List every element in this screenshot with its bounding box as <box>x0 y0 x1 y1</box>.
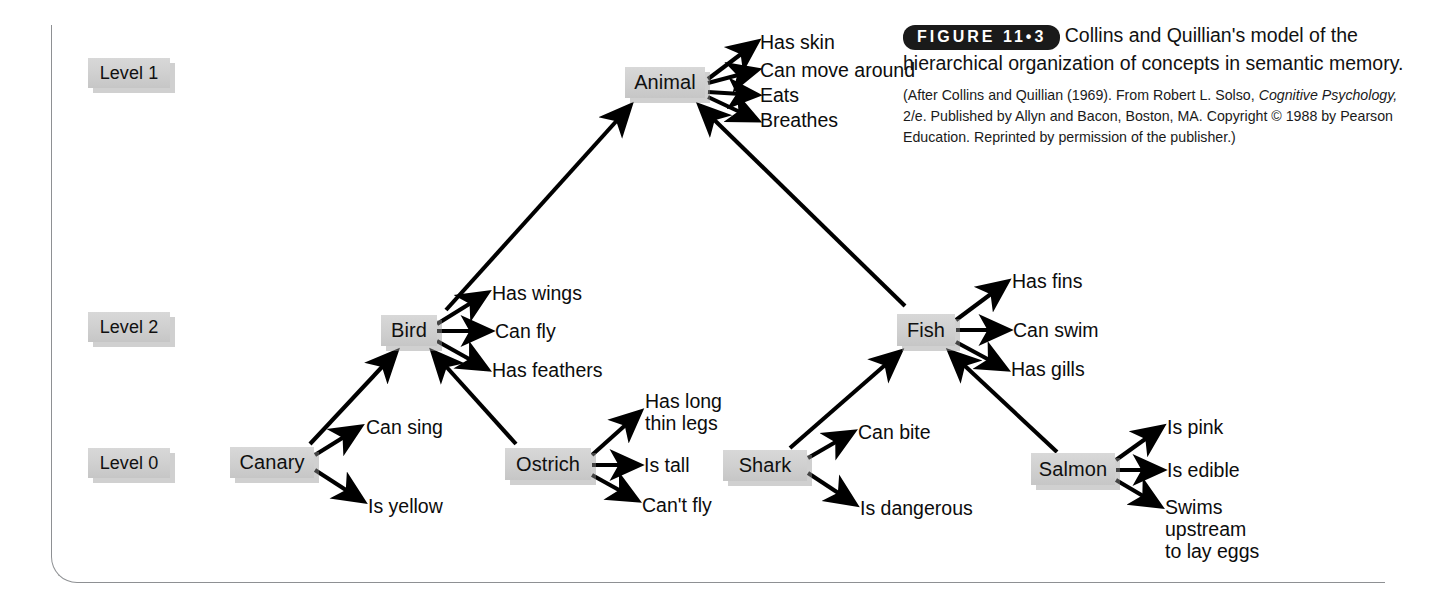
property-animal-can-move-around: Can move around <box>760 59 915 81</box>
node-ostrich-label: Ostrich <box>516 453 580 476</box>
node-shark-label: Shark <box>739 454 792 477</box>
property-canary-can-sing: Can sing <box>366 416 443 438</box>
credit-line-4: Reprinted by permission of the publisher… <box>974 129 1236 145</box>
property-bird-can-fly: Can fly <box>495 320 556 342</box>
node-salmon-label: Salmon <box>1039 458 1107 481</box>
property-fish-has-gills: Has gills <box>1011 358 1085 380</box>
node-ostrich[interactable]: Ostrich <box>505 448 591 480</box>
property-animal-breathes: Breathes <box>760 109 838 131</box>
property-bird-has-feathers: Has feathers <box>492 359 603 381</box>
edge-bird-to-animal <box>446 106 630 310</box>
property-animal-eats: Eats <box>760 84 799 106</box>
node-canary[interactable]: Canary <box>230 447 314 478</box>
property-ostrich-is-tall: Is tall <box>644 454 690 476</box>
level-label-0: Level 0 <box>88 448 170 478</box>
property-fish-can-swim: Can swim <box>1013 319 1099 341</box>
node-fish-label: Fish <box>907 319 945 342</box>
property-ostrich-has-long-thin-legs: Has long thin legs <box>645 390 722 434</box>
property-ostrich-cant-fly: Can't fly <box>642 494 712 516</box>
level-label-2-text: Level 2 <box>100 317 159 338</box>
property-salmon-is-edible: Is edible <box>1167 459 1240 481</box>
level-label-2: Level 2 <box>88 312 170 342</box>
edge-fish-has-gills <box>956 342 1006 369</box>
node-salmon[interactable]: Salmon <box>1031 453 1115 485</box>
edge-fish-to-animal <box>700 106 905 306</box>
node-shark[interactable]: Shark <box>723 450 807 481</box>
caption-body: FIGURE 11•3 Collins and Quillian's model… <box>903 22 1408 77</box>
figure-caption: FIGURE 11•3 Collins and Quillian's model… <box>903 22 1408 148</box>
credit-line-1: (After Collins and Quillian (1969). From… <box>903 87 1255 103</box>
level-label-0-text: Level 0 <box>100 453 159 474</box>
node-canary-label: Canary <box>239 451 304 474</box>
edge-bird-has-wings <box>437 293 487 324</box>
property-shark-can-bite: Can bite <box>858 421 931 443</box>
property-shark-is-dangerous: Is dangerous <box>860 497 973 519</box>
node-bird-label: Bird <box>391 319 427 342</box>
credit-source-title: Cognitive Psychology, <box>1259 87 1398 103</box>
figure-page: Level 1 Level 2 Level 0 Animal Bird Fish… <box>0 0 1445 607</box>
edge-animal-can-move <box>708 70 757 83</box>
node-animal[interactable]: Animal <box>625 67 705 98</box>
edge-shark-is-dangerous <box>808 473 855 504</box>
property-animal-has-skin: Has skin <box>760 31 835 53</box>
edge-animal-eats <box>708 92 757 95</box>
node-bird[interactable]: Bird <box>381 315 437 346</box>
edge-shark-can-bite <box>808 432 853 458</box>
node-animal-label: Animal <box>634 71 696 94</box>
level-label-1-text: Level 1 <box>100 63 159 84</box>
edge-animal-has-skin <box>708 42 757 79</box>
property-bird-has-wings: Has wings <box>492 282 582 304</box>
edge-bird-has-feathers <box>437 341 487 369</box>
property-salmon-is-pink: Is pink <box>1167 416 1223 438</box>
edge-canary-is-yellow <box>315 470 363 501</box>
property-salmon-swims-upstream: Swims upstream to lay eggs <box>1165 496 1259 562</box>
edge-ostrich-has-long-thin-legs <box>592 412 640 455</box>
credit-line-2: 2/e. Published by Allyn and Bacon, <box>903 108 1121 124</box>
figure-number-badge: FIGURE 11•3 <box>903 25 1060 50</box>
edge-salmon-swims-upstream <box>1116 480 1160 506</box>
level-label-1: Level 1 <box>88 58 170 88</box>
edge-animal-breathes <box>708 97 757 120</box>
node-fish[interactable]: Fish <box>897 314 955 346</box>
edge-ostrich-cant-fly <box>592 475 637 500</box>
property-canary-is-yellow: Is yellow <box>368 495 443 517</box>
property-fish-has-fins: Has fins <box>1012 270 1082 292</box>
caption-credit: (After Collins and Quillian (1969). From… <box>903 85 1408 148</box>
edge-salmon-is-pink <box>1116 427 1162 460</box>
edge-canary-can-sing <box>315 427 360 455</box>
edge-fish-has-fins <box>956 282 1007 320</box>
